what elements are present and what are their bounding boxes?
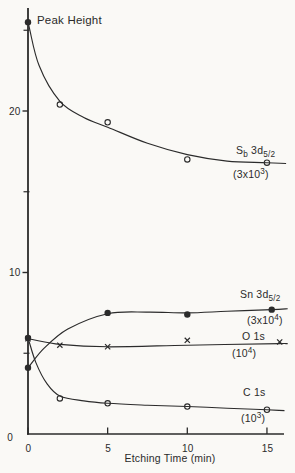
series-label-c-1s: C 1s [243, 386, 265, 398]
y-tick-label: 0 [7, 432, 13, 443]
series-label-sn-3d52: Sn 3d5/2 [240, 288, 281, 303]
data-point-sn-3d52 [184, 311, 190, 317]
series-scale-label-c-1s: (103) [241, 411, 265, 424]
y-axis-title: Peak Height [37, 14, 102, 26]
series-curve-sb-3d52 [28, 22, 286, 163]
data-point-sb-3d52 [57, 102, 62, 107]
data-point-sn-3d52 [25, 365, 31, 371]
series-layer: Sb 3d5/2(3x103)Sn 3d5/2(3x104)O 1s(104)C… [25, 19, 288, 424]
data-point-sn-3d52 [104, 310, 110, 316]
x-tick-label: 15 [262, 443, 274, 454]
series-label-sb-3d52: Sb 3d5/2 [236, 144, 275, 159]
y-tick-label: 10 [9, 267, 21, 278]
data-point-sb-3d52 [25, 19, 31, 25]
x-axis-title: Etching Time (min) [124, 452, 215, 464]
series-scale-label-o-1s: (104) [232, 346, 256, 359]
xps-peak-height-chart: 01020051015 Peak Height Etching Time (mi… [0, 0, 295, 473]
data-point-sn-3d52 [269, 306, 275, 312]
data-point-c-1s [25, 335, 31, 341]
x-tick-label: 5 [105, 443, 111, 454]
data-point-sb-3d52 [105, 120, 110, 125]
figure: 01020051015 Peak Height Etching Time (mi… [0, 0, 295, 473]
series-label-o-1s: O 1s [242, 330, 265, 342]
series-scale-label-sb-3d52: (3x103) [233, 167, 269, 180]
y-tick-label: 20 [9, 106, 21, 117]
series-scale-label-sn-3d52: (3x104) [247, 313, 283, 326]
x-tick-label: 0 [26, 443, 32, 454]
data-point-sb-3d52 [185, 157, 190, 162]
